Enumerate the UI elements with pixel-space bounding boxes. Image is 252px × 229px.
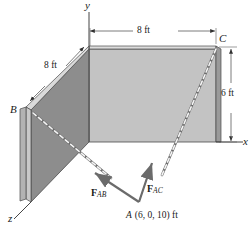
force-subscript-ab: AB xyxy=(97,190,106,199)
force-label-ac: FAC xyxy=(147,184,163,195)
dimension-right-height-label: 6 ft xyxy=(221,89,234,99)
point-label-a: A xyxy=(126,210,132,220)
x-axis-tick xyxy=(231,136,232,137)
diagram-svg xyxy=(0,0,252,229)
point-label-a-with-coords: A(6, 0, 10) ft xyxy=(126,211,178,221)
right-panel xyxy=(89,46,221,142)
dim-top-width xyxy=(90,28,216,46)
dimension-top-width-label: 8 ft xyxy=(137,26,150,36)
force-subscript-ac: AC xyxy=(153,186,163,195)
z-axis-label: z xyxy=(8,213,12,224)
y-axis-label: y xyxy=(85,0,90,11)
x-axis-label: x xyxy=(243,136,248,147)
force-label-ab: FAB xyxy=(91,188,106,199)
dimension-left-depth-label: 8 ft xyxy=(44,61,57,71)
point-a-coordinates: (6, 0, 10) ft xyxy=(135,210,178,220)
point-label-b: B xyxy=(10,104,17,115)
figure-canvas: y x z B C 8 ft 8 ft 6 ft FAB FAC A(6, 0,… xyxy=(0,0,252,229)
point-label-c: C xyxy=(219,33,226,44)
z-axis xyxy=(14,202,31,219)
